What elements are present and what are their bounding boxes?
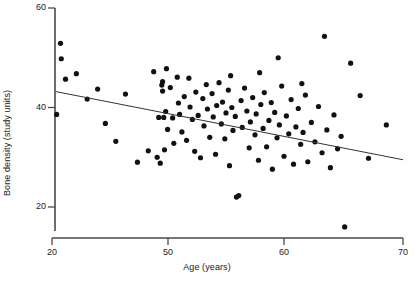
data-point	[230, 128, 235, 133]
data-point	[258, 102, 263, 107]
data-point	[316, 104, 321, 109]
data-point	[293, 124, 298, 129]
data-point	[272, 110, 277, 115]
data-point	[213, 152, 218, 157]
data-point	[204, 82, 209, 87]
data-point	[324, 127, 329, 132]
data-point	[309, 120, 314, 125]
data-point	[227, 163, 232, 168]
data-point	[276, 55, 281, 60]
data-point	[348, 61, 353, 66]
x-tick-label: 60	[274, 247, 294, 257]
data-point	[279, 84, 284, 89]
data-point	[274, 135, 279, 140]
data-point	[384, 122, 389, 127]
data-point	[296, 106, 301, 111]
data-point	[229, 105, 234, 110]
data-point	[160, 79, 165, 84]
data-point	[74, 71, 79, 76]
data-point	[54, 112, 59, 117]
data-point	[162, 147, 167, 152]
data-point	[248, 119, 253, 124]
data-point	[264, 144, 269, 149]
data-point	[257, 70, 262, 75]
data-point	[331, 112, 336, 117]
data-point	[299, 81, 304, 86]
y-tick-label: 40	[28, 102, 46, 112]
data-point	[242, 86, 247, 91]
data-point	[220, 99, 225, 104]
data-point	[192, 149, 197, 154]
data-point	[58, 41, 63, 46]
data-point	[209, 91, 214, 96]
data-points	[54, 34, 389, 230]
data-point	[182, 94, 187, 99]
data-point	[342, 224, 347, 229]
data-point	[322, 34, 327, 39]
data-point	[328, 165, 333, 170]
data-point	[300, 130, 305, 135]
data-point	[59, 56, 64, 61]
data-point	[233, 114, 238, 119]
data-point	[207, 135, 212, 140]
data-point	[211, 114, 216, 119]
y-tick-label: 20	[28, 201, 46, 211]
data-point	[170, 115, 175, 120]
data-point	[151, 69, 156, 74]
data-point	[186, 76, 191, 81]
data-point	[250, 95, 255, 100]
data-point	[247, 145, 252, 150]
data-point	[216, 80, 221, 85]
data-point	[205, 106, 210, 111]
data-point	[252, 132, 257, 137]
x-axis-label: Age (years)	[0, 262, 414, 272]
data-point	[161, 115, 166, 120]
data-point	[289, 97, 294, 102]
x-axis-ticks	[52, 238, 403, 245]
y-tick-label: 60	[28, 2, 46, 12]
data-point	[228, 73, 233, 78]
data-point	[222, 136, 227, 141]
trend-line	[56, 92, 403, 160]
y-axis-ticks	[48, 8, 55, 207]
data-point	[358, 93, 363, 98]
data-point	[155, 155, 160, 160]
data-point	[339, 134, 344, 139]
data-point	[226, 87, 231, 92]
regression-line	[56, 92, 403, 160]
data-point	[303, 92, 308, 97]
data-point	[284, 113, 289, 118]
data-point	[266, 118, 271, 123]
data-point	[319, 150, 324, 155]
data-point	[201, 123, 206, 128]
data-point	[277, 122, 282, 127]
x-tick-label: 50	[158, 247, 178, 257]
data-point	[256, 158, 261, 163]
data-point	[103, 121, 108, 126]
data-point	[187, 104, 192, 109]
data-point	[175, 75, 180, 80]
data-point	[184, 138, 189, 143]
data-point	[63, 77, 68, 82]
data-point	[165, 127, 170, 132]
data-point	[281, 154, 286, 159]
data-point	[146, 148, 151, 153]
data-point	[261, 126, 266, 131]
data-point	[244, 108, 249, 113]
data-point	[305, 159, 310, 164]
data-point	[135, 160, 140, 165]
y-axis-label: Bone density (study units)	[2, 55, 15, 230]
data-point	[95, 86, 100, 91]
data-point	[171, 141, 176, 146]
data-point	[113, 139, 118, 144]
data-point	[156, 115, 161, 120]
data-point	[270, 167, 275, 172]
x-tick-label: 20	[42, 247, 62, 257]
data-point	[176, 100, 181, 105]
data-point	[236, 193, 241, 198]
data-point	[269, 100, 274, 105]
scatter-plot-figure: Bone density (study units) Age (years) 2…	[0, 0, 414, 287]
data-point	[286, 131, 291, 136]
data-point	[238, 98, 243, 103]
data-point	[179, 129, 184, 134]
